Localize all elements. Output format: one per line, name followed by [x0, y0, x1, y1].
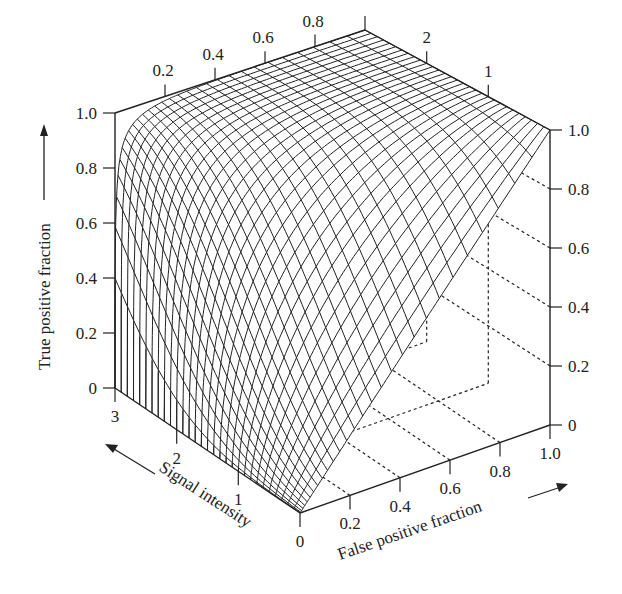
top-signal-tick-label: 2: [422, 28, 431, 47]
z-tick-label-right: 0.2: [568, 357, 589, 376]
z-axis-arrow-icon: [40, 124, 48, 200]
z-tick-label-left: 0.6: [76, 214, 97, 233]
top-fpf-tick-label: 0.4: [202, 45, 224, 64]
top-signal-tick-label: 1: [484, 62, 493, 81]
z-tick-label-left: 0.2: [76, 324, 97, 343]
z-tick-label-right: 0: [568, 416, 577, 435]
z-tick-label-left: 0: [89, 379, 98, 398]
y-tick-label: 3: [111, 407, 120, 426]
top-fpf-tick-label: 0.6: [252, 28, 273, 47]
z-tick-label-right: 0.4: [568, 298, 590, 317]
top-fpf-tick-label: 0.8: [302, 12, 323, 31]
roc-surface-chart: 00.20.40.60.81.000.20.40.60.81.000.20.40…: [0, 0, 622, 594]
y-axis-arrow-icon: [105, 444, 155, 474]
surface-fill: [115, 30, 550, 513]
z-tick-label-left: 1.0: [76, 104, 97, 123]
top-fpf-tick-label: 0.2: [152, 61, 173, 80]
z-axis-title: True positive fraction: [35, 223, 54, 370]
x-tick-label: 0.6: [439, 479, 460, 498]
z-tick-label-right: 0.8: [568, 180, 589, 199]
x-axis-arrow-icon: [528, 483, 568, 498]
x-tick-label: 0: [296, 532, 305, 551]
z-tick-label-right: 0.6: [568, 239, 589, 258]
x-tick-label: 1.0: [539, 444, 560, 463]
surface-mesh: [115, 30, 550, 513]
z-tick-label-left: 0.8: [76, 159, 97, 178]
x-tick-label: 0.8: [489, 462, 510, 481]
x-tick-label: 0.4: [389, 497, 411, 516]
z-tick-label-left: 0.4: [76, 269, 98, 288]
x-tick-label: 0.2: [339, 514, 360, 533]
z-tick-label-right: 1.0: [568, 121, 589, 140]
